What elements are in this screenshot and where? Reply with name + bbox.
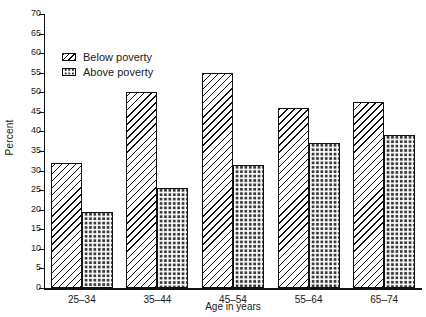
y-axis-tick-label: 25	[31, 183, 41, 196]
bar-group	[202, 14, 264, 288]
y-axis-tick-label: 30	[31, 164, 41, 177]
bar-above-poverty	[157, 188, 188, 288]
y-axis-tick-label: 10	[31, 242, 41, 255]
y-axis-tick-label: 35	[31, 144, 41, 157]
legend-item-above-poverty: Above poverty	[62, 64, 153, 79]
legend-item-below-poverty: Below poverty	[62, 49, 153, 64]
bar-below-poverty	[202, 73, 233, 288]
bar-below-poverty	[278, 108, 309, 288]
bar-above-poverty	[233, 165, 264, 288]
y-axis-tick-label: 5	[36, 261, 41, 274]
y-axis-tick-label: 55	[31, 66, 41, 79]
y-axis-tick-label: 70	[31, 7, 41, 20]
legend: Below poverty Above poverty	[62, 49, 153, 79]
bar-chart: Percent 0510152025303540455055606570 25–…	[0, 0, 426, 317]
bar-below-poverty	[51, 163, 82, 288]
legend-swatch-above-poverty-icon	[62, 68, 76, 76]
bar-above-poverty	[309, 143, 340, 288]
y-axis-tick-label: 15	[31, 222, 41, 235]
bar-above-poverty	[384, 135, 415, 288]
x-axis-title: Age in years	[44, 301, 422, 312]
legend-label-below-poverty: Below poverty	[83, 51, 152, 63]
x-axis-line	[44, 288, 422, 290]
y-axis-tick-label: 40	[31, 124, 41, 137]
bar-group	[353, 14, 415, 288]
bar-below-poverty	[353, 102, 384, 288]
y-axis-title: Percent	[4, 103, 15, 173]
y-axis-tick-label: 60	[31, 46, 41, 59]
bar-group	[278, 14, 340, 288]
y-axis-tick-label: 0	[36, 281, 41, 294]
y-axis-tick-label: 65	[31, 27, 41, 40]
y-axis-line	[44, 14, 45, 288]
y-axis-tick-label: 20	[31, 203, 41, 216]
bar-below-poverty	[126, 92, 157, 288]
y-axis-tick-label: 45	[31, 105, 41, 118]
bar-above-poverty	[82, 212, 113, 288]
legend-label-above-poverty: Above poverty	[83, 66, 153, 78]
y-axis-tick-label: 50	[31, 85, 41, 98]
legend-swatch-below-poverty-icon	[62, 53, 76, 61]
